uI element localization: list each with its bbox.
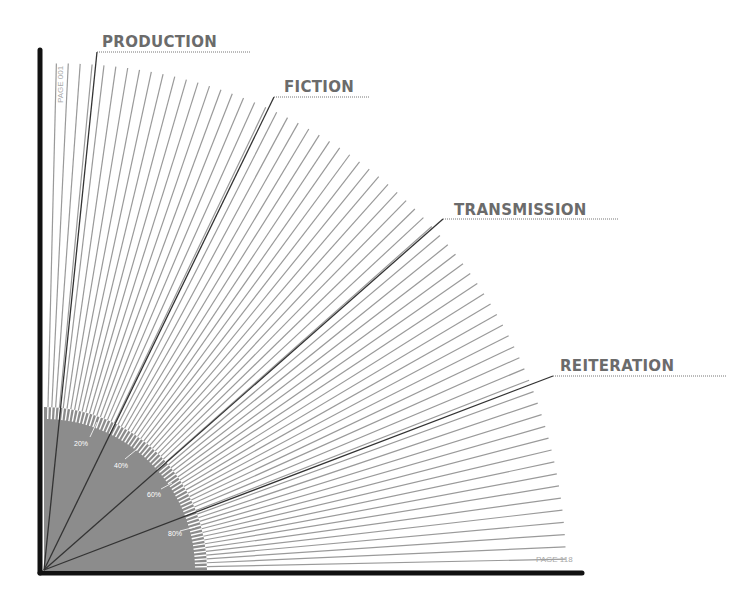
- progress-quarter-disc: [44, 407, 207, 570]
- ray: [48, 63, 56, 407]
- ray: [71, 68, 128, 409]
- ray: [155, 192, 397, 451]
- quarter-disc: [44, 407, 207, 570]
- ray: [63, 65, 104, 408]
- ray: [93, 83, 198, 415]
- ray: [75, 70, 140, 410]
- ray: [205, 486, 559, 544]
- ray: [206, 510, 563, 551]
- ray: [203, 462, 554, 536]
- ray: [118, 112, 277, 424]
- ray: [111, 103, 255, 422]
- ray: [138, 148, 340, 437]
- ray: [128, 129, 309, 430]
- ray: [182, 294, 484, 484]
- ray: [100, 90, 221, 417]
- ray: [163, 218, 423, 459]
- ray: [59, 64, 92, 407]
- ray: [190, 336, 509, 497]
- ray: [193, 358, 520, 504]
- ray: [204, 474, 557, 540]
- ray-diagram: PRODUCTIONFICTIONTRANSMISSIONREITERATION…: [0, 0, 736, 604]
- category-label-fiction: FICTION: [284, 78, 354, 96]
- percent-label: 80%: [168, 530, 182, 537]
- ray: [203, 450, 552, 533]
- page-end-label: PAGE 118: [536, 555, 573, 564]
- ray: [171, 245, 448, 468]
- ray: [86, 77, 175, 413]
- ray: [67, 67, 116, 409]
- ray: [197, 392, 533, 515]
- ray: [147, 169, 370, 443]
- category-label-transmission: TRANSMISSION: [454, 201, 587, 219]
- ray: [144, 162, 360, 441]
- ray: [173, 254, 455, 471]
- category-label-reiteration: REITERATION: [560, 357, 674, 375]
- ray: [200, 415, 542, 522]
- ray: [205, 498, 560, 547]
- page-start-label: PAGE 001: [56, 65, 65, 103]
- ray: [56, 64, 81, 408]
- percent-label: 20%: [74, 440, 88, 447]
- category-label-production: PRODUCTION: [102, 33, 217, 51]
- ray: [184, 304, 491, 487]
- percent-label: 60%: [147, 491, 161, 498]
- percent-label: 40%: [114, 462, 128, 469]
- ray: [131, 135, 319, 432]
